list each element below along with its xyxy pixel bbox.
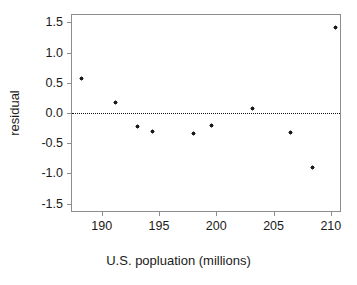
y-axis-tick (67, 113, 72, 114)
x-axis-tick (274, 211, 275, 216)
x-axis-tick-label: 195 (149, 220, 170, 233)
data-point (334, 26, 337, 29)
data-point (80, 77, 83, 80)
y-axis-tick-label: -1.0 (41, 167, 63, 180)
y-axis-title: residual (8, 14, 22, 212)
y-axis-tick-label: 1.0 (46, 46, 63, 59)
y-axis-tick-label: -1.5 (41, 197, 63, 210)
y-axis-tick-label: 1.5 (46, 16, 63, 29)
data-point (151, 130, 154, 133)
y-axis-tick (67, 22, 72, 23)
y-axis-tick (67, 83, 72, 84)
x-axis-tick (102, 211, 103, 216)
zero-residual-line (72, 113, 340, 114)
y-axis-tick-label: 0.5 (46, 77, 63, 90)
data-point (210, 124, 213, 127)
data-point (136, 125, 139, 128)
x-axis-tick (159, 211, 160, 216)
plot-area (72, 15, 340, 211)
data-point (311, 166, 314, 169)
y-axis-tick (67, 143, 72, 144)
data-point (251, 107, 254, 110)
y-axis-tick-label: -0.5 (41, 137, 63, 150)
y-axis-tick (67, 53, 72, 54)
x-axis-tick-label: 210 (320, 220, 341, 233)
x-axis-tick (331, 211, 332, 216)
x-axis-tick-label: 205 (263, 220, 284, 233)
x-axis-tick-label: 200 (206, 220, 227, 233)
plot-frame: 1.51.00.50.0-0.5-1.0-1.5190195200205210 (71, 14, 341, 212)
y-axis-tick (67, 204, 72, 205)
data-point (114, 101, 117, 104)
x-axis-title: U.S. popluation (millions) (0, 254, 357, 267)
data-point (289, 131, 292, 134)
y-axis-tick (67, 173, 72, 174)
x-axis-tick-label: 190 (91, 220, 112, 233)
residual-scatter-figure: 1.51.00.50.0-0.5-1.0-1.5190195200205210 … (0, 0, 357, 285)
y-axis-tick-label: 0.0 (46, 107, 63, 120)
x-axis-tick (216, 211, 217, 216)
data-point (192, 132, 195, 135)
